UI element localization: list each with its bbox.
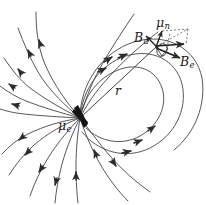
label-b-a-base: B: [134, 30, 143, 45]
field-line-canvas: [0, 0, 206, 205]
label-mu-e: μe: [58, 120, 71, 133]
dipole-field-figure: μe μn Ba Be r: [0, 0, 206, 205]
label-r-base: r: [115, 83, 121, 98]
label-b-a: Ba: [134, 32, 148, 45]
label-mu-e-sub: e: [66, 124, 71, 134]
label-b-e-sub: e: [189, 60, 194, 70]
label-mu-n-base: μ: [156, 15, 164, 30]
label-b-a-sub: a: [143, 36, 148, 46]
label-r: r: [115, 85, 121, 98]
label-b-e: Be: [180, 56, 194, 69]
label-b-e-base: B: [180, 54, 189, 69]
label-mu-n: μn: [156, 17, 170, 30]
label-mu-e-base: μ: [58, 118, 66, 133]
label-mu-n-sub: n: [164, 21, 169, 31]
